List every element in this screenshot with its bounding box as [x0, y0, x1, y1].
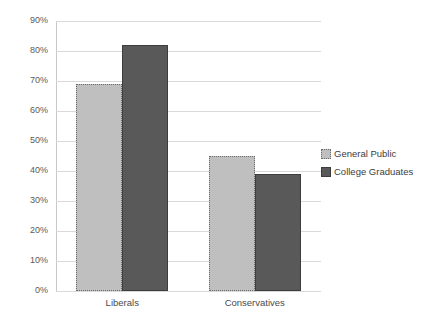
y-axis-tick-label: 0%	[0, 286, 48, 295]
bar-conservatives-general-public	[209, 156, 255, 291]
chart-legend: General PublicCollege Graduates	[321, 145, 413, 181]
plot-area	[56, 21, 321, 291]
chart-figure: 90%80%70%60%50%40%30%20%10%0% LiberalsCo…	[0, 0, 426, 326]
x-axis-category-label: Conservatives	[189, 298, 322, 308]
gridline	[56, 81, 321, 82]
bar-conservatives-college-graduates	[255, 174, 301, 291]
y-axis-tick-label: 40%	[0, 166, 48, 175]
legend-item-label: College Graduates	[334, 167, 413, 177]
x-axis-category-label: Liberals	[56, 298, 189, 308]
legend-item: General Public	[321, 145, 413, 163]
gridline	[56, 51, 321, 52]
legend-item-label: General Public	[334, 149, 396, 159]
y-axis-tick-label: 90%	[0, 16, 48, 25]
y-axis-tick-label: 70%	[0, 76, 48, 85]
y-axis-tick-label: 60%	[0, 106, 48, 115]
y-axis-tick-label: 50%	[0, 136, 48, 145]
bar-liberals-college-graduates	[122, 45, 168, 291]
legend-swatch-icon	[321, 149, 331, 159]
legend-swatch-icon	[321, 167, 331, 177]
y-axis-tick-label: 10%	[0, 256, 48, 265]
gridline	[56, 21, 321, 22]
gridline	[56, 291, 321, 292]
y-axis-tick-label: 30%	[0, 196, 48, 205]
y-axis-tick-label: 20%	[0, 226, 48, 235]
legend-item: College Graduates	[321, 163, 413, 181]
y-axis-tick-label: 80%	[0, 46, 48, 55]
bar-liberals-general-public	[76, 84, 122, 291]
